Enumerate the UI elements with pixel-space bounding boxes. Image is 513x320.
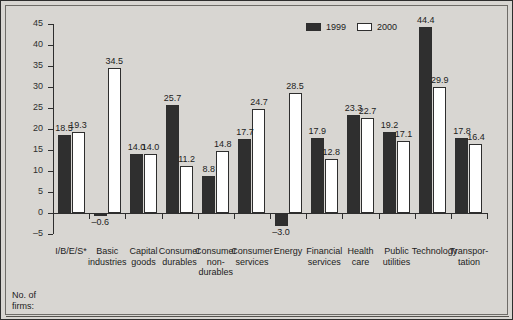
value-label-2000-7: 12.8 [318,148,344,157]
bottom-divider [6,316,509,317]
x-tick [270,213,271,219]
bar-2000-7 [325,159,338,213]
y-tick-label: 35 [17,61,43,70]
category-line: Transpor- [448,246,490,257]
y-tick-label: 40 [17,40,43,49]
bar-2000-10 [433,87,446,213]
y-tick-label: –5 [17,229,43,238]
y-tick [48,45,53,46]
x-tick [379,213,380,219]
y-tick [48,24,53,25]
category-line: utilities [376,257,418,268]
value-label-2000-2: 14.0 [137,143,163,152]
value-label-1999-4: 8.8 [196,165,222,174]
bar-2000-5 [252,109,265,213]
value-label-2000-0: 19.3 [65,121,91,130]
firm-counts-row: 5779279424203240912242971612230958105 [6,292,493,314]
y-tick-label: 10 [17,166,43,175]
x-tick [415,213,416,219]
y-tick-label: 20 [17,124,43,133]
value-label-2000-11: 16.4 [463,133,489,142]
x-tick [53,213,54,219]
value-label-1999-10: 44.4 [413,16,439,25]
category-labels-row: I/B/E/S*BasicindustriesCapitalgoodsConsu… [53,246,493,286]
category-line: tation [448,257,490,268]
bar-1999-6 [275,213,288,226]
bar-1999-10 [419,27,432,213]
value-label-1999-6: –3.0 [268,228,294,237]
y-tick [48,66,53,67]
value-label-2000-10: 29.9 [427,76,453,85]
bar-2000-9 [397,141,410,213]
y-tick-label: 30 [17,82,43,91]
value-label-2000-3: 11.2 [174,155,200,164]
category-line: durables [195,267,237,278]
value-label-1999-3: 25.7 [160,94,186,103]
y-tick [48,87,53,88]
bar-2000-3 [180,166,193,213]
y-tick [48,150,53,151]
value-label-2000-4: 14.8 [210,140,236,149]
x-tick [487,213,488,219]
y-tick [48,234,53,235]
bar-2000-2 [144,154,157,213]
x-tick [125,213,126,219]
bar-1999-1 [94,213,107,216]
value-label-2000-9: 17.1 [391,130,417,139]
y-tick [48,171,53,172]
y-tick-label: 5 [17,187,43,196]
chart-inner-frame: 1999 2000 454035302520151050–5 18.519.3–… [5,5,508,315]
bar-1999-2 [130,154,143,213]
x-tick [198,213,199,219]
category-label-11: Transpor-tation [448,246,490,267]
bar-1999-8 [347,115,360,213]
bar-2000-8 [361,118,374,213]
bar-1999-11 [455,138,468,213]
y-tick-label: 25 [17,103,43,112]
value-label-2000-6: 28.5 [282,82,308,91]
value-label-2000-1: 34.5 [101,57,127,66]
x-tick [306,213,307,219]
x-tick [162,213,163,219]
value-label-2000-8: 22.7 [354,107,380,116]
value-label-2000-5: 24.7 [246,98,272,107]
y-tick [48,108,53,109]
bar-2000-0 [72,132,85,213]
value-label-1999-7: 17.9 [304,127,330,136]
bar-2000-6 [289,93,302,213]
y-tick-label: 45 [17,19,43,28]
category-line: services [231,257,273,268]
bar-1999-4 [202,176,215,213]
bar-2000-1 [108,68,121,213]
x-tick [451,213,452,219]
bar-1999-9 [383,132,396,213]
bar-2000-11 [469,144,482,213]
y-tick-label: 0 [17,208,43,217]
bar-2000-4 [216,151,229,213]
y-tick-label: 15 [17,145,43,154]
value-label-1999-5: 17.7 [232,128,258,137]
chart-frame: 1999 2000 454035302520151050–5 18.519.3–… [0,0,513,320]
bar-1999-5 [238,139,251,213]
y-tick [48,192,53,193]
plot-area: 454035302520151050–5 18.519.3–0.634.514.… [53,24,487,235]
value-label-1999-1: –0.6 [87,218,113,227]
bar-1999-0 [58,135,71,213]
x-tick [234,213,235,219]
x-tick [342,213,343,219]
